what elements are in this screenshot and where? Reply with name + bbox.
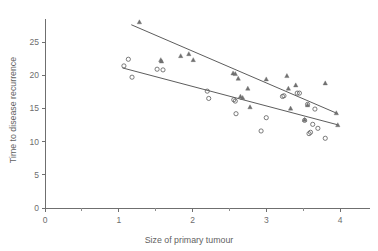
data-point-circle: [234, 112, 238, 116]
plot-canvas: 0510152025 01234 Size of primary tumour …: [0, 0, 378, 251]
data-point-triangle: [288, 106, 292, 110]
data-point-circle: [316, 126, 320, 130]
y-axis-title: Time to disease recurrence: [8, 57, 18, 163]
y-tick-label-0: 0: [34, 203, 39, 213]
y-tick-label-10: 10: [30, 137, 40, 147]
data-point-circle: [122, 64, 126, 68]
data-point-triangle: [323, 81, 327, 85]
y-axis: 0510152025: [30, 19, 45, 213]
y-axis-ticks: [42, 42, 46, 208]
x-tick-label-4: 4: [338, 215, 343, 225]
data-point-circle: [161, 68, 165, 72]
data-point-circle: [282, 94, 286, 98]
series-circles-points: [122, 57, 328, 140]
y-tick-label-15: 15: [30, 103, 40, 113]
data-point-circle: [313, 107, 317, 111]
data-point-triangle: [191, 58, 195, 62]
data-point-triangle: [187, 52, 191, 56]
scatter-chart-figure: 0510152025 01234 Size of primary tumour …: [0, 0, 378, 251]
lower-fit-line: [122, 68, 338, 125]
data-point-circle: [155, 67, 159, 71]
data-point-triangle: [248, 105, 252, 109]
data-point-triangle: [179, 54, 183, 58]
x-tick-label-1: 1: [116, 215, 121, 225]
y-axis-tick-labels: 0510152025: [30, 37, 40, 213]
data-point-triangle: [236, 76, 240, 80]
x-tick-label-0: 0: [43, 215, 48, 225]
upper-fit-line: [131, 25, 338, 114]
y-tick-label-25: 25: [30, 37, 40, 47]
y-tick-label-5: 5: [34, 170, 39, 180]
data-point-circle: [311, 122, 315, 126]
data-point-triangle: [285, 74, 289, 78]
data-point-circle: [130, 75, 134, 79]
x-tick-label-2: 2: [190, 215, 195, 225]
series-triangles-points: [137, 20, 340, 127]
data-point-circle: [323, 136, 327, 140]
data-point-triangle: [264, 77, 268, 81]
data-point-circle: [126, 57, 130, 61]
data-point-triangle: [294, 83, 298, 87]
x-axis-tick-labels: 01234: [43, 215, 343, 225]
data-point-triangle: [137, 20, 141, 24]
x-axis: 01234: [43, 208, 370, 225]
data-point-circle: [264, 116, 268, 120]
regression-lines: [122, 25, 338, 125]
x-tick-label-3: 3: [264, 215, 269, 225]
data-point-circle: [207, 96, 211, 100]
x-axis-ticks: [45, 208, 340, 212]
x-axis-title: Size of primary tumour: [145, 235, 234, 245]
data-point-triangle: [286, 86, 290, 90]
y-tick-label-20: 20: [30, 70, 40, 80]
data-point-circle: [259, 129, 263, 133]
data-point-triangle: [246, 86, 250, 90]
